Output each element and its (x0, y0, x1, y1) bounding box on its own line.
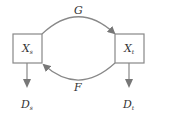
output-dt-subscript: t (132, 104, 134, 111)
edge-f-arrow (44, 63, 115, 80)
output-dt-letter: D (123, 98, 132, 111)
node-xs-label: Xs (22, 43, 33, 55)
output-ds-subscript: s (30, 104, 33, 111)
output-ds-letter: D (21, 98, 30, 111)
edge-f-letter: F (74, 81, 82, 94)
edge-f-label: F (74, 82, 82, 93)
output-ds-label: Ds (21, 99, 33, 111)
output-ds-arrowhead (23, 79, 31, 88)
edge-g-label: G (74, 5, 83, 16)
node-xt-letter: X (124, 42, 132, 55)
node-xt-label: Xt (124, 43, 134, 55)
cycle-diagram: Xs Xt G F Ds Dt (0, 0, 186, 119)
output-dt-label: Dt (123, 99, 134, 111)
node-xt-subscript: t (132, 48, 134, 55)
output-dt-arrowhead (125, 79, 133, 88)
edge-g-letter: G (74, 4, 83, 17)
node-xs-subscript: s (30, 48, 33, 55)
edge-g-arrow (42, 17, 114, 34)
node-xs-letter: X (22, 42, 30, 55)
